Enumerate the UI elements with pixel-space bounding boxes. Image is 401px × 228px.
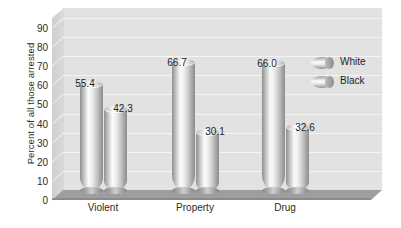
legend-label: Black: [340, 75, 364, 86]
legend: White Black: [311, 55, 387, 93]
data-label: 42.3: [113, 103, 132, 114]
bar-drug-black: [286, 128, 309, 190]
y-axis-tick-label: 90: [22, 23, 48, 34]
cylinder-swatch-icon: [311, 76, 333, 88]
y-axis-tick-label: 0: [22, 195, 48, 206]
bar-foot: [286, 187, 309, 194]
bar-drug-white: [262, 64, 285, 190]
bar-foot: [172, 187, 195, 194]
bars-layer: 55.442.366.730.166.032.6: [52, 8, 382, 200]
bar-foot: [80, 187, 103, 194]
data-label: 30.1: [205, 126, 224, 137]
y-axis-tick-labels: 0102030405060708090: [22, 0, 48, 228]
data-label: 32.6: [295, 122, 314, 133]
y-axis-tick-label: 10: [22, 175, 48, 186]
bar-foot: [196, 187, 219, 194]
data-label: 66.7: [167, 57, 186, 68]
y-axis-tick-label: 60: [22, 80, 48, 91]
bar-foot: [104, 187, 127, 194]
x-axis-category-label: Violent: [88, 202, 118, 213]
bar-violent-white: [80, 84, 103, 190]
y-axis-tick-label: 70: [22, 61, 48, 72]
bar-chart: Percent of all those arrested 0102030405…: [0, 0, 401, 228]
legend-item-black: Black: [311, 74, 387, 90]
bar-body: [262, 64, 285, 190]
plot-area: 55.442.366.730.166.032.6: [52, 8, 382, 200]
y-axis-tick-label: 30: [22, 137, 48, 148]
bar-body: [104, 109, 127, 190]
bar-body: [172, 63, 195, 190]
legend-label: White: [340, 56, 366, 67]
x-axis-category-label: Property: [176, 202, 214, 213]
bar-violent-black: [104, 109, 127, 190]
y-axis-tick-label: 40: [22, 118, 48, 129]
legend-item-white: White: [311, 55, 387, 71]
bar-property-black: [196, 132, 219, 190]
bar-foot: [262, 187, 285, 194]
y-axis-tick-label: 50: [22, 99, 48, 110]
bar-property-white: [172, 63, 195, 190]
y-axis-tick-label: 20: [22, 156, 48, 167]
bar-body: [286, 128, 309, 190]
x-axis-category-label: Drug: [274, 202, 296, 213]
y-axis-tick-label: 80: [22, 42, 48, 53]
cylinder-swatch-icon: [311, 57, 333, 69]
bar-body: [196, 132, 219, 190]
data-label: 66.0: [257, 58, 276, 69]
bar-body: [80, 84, 103, 190]
data-label: 55.4: [75, 78, 94, 89]
